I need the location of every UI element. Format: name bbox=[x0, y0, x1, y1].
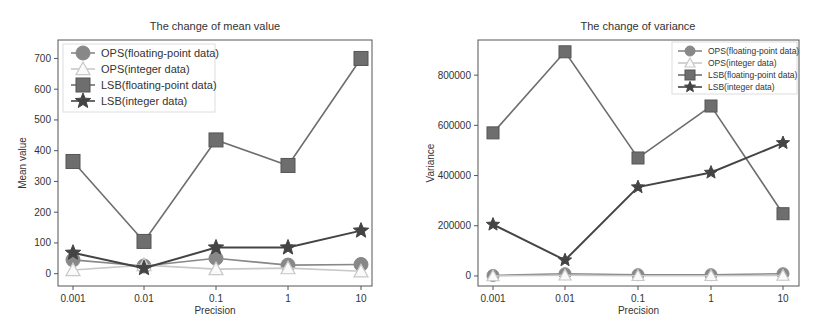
variance-chart: The change of variance020000040000060000… bbox=[410, 0, 813, 322]
data-point-marker bbox=[486, 218, 499, 231]
legend-marker-circle bbox=[76, 46, 90, 60]
y-tick-label: 0 bbox=[465, 270, 471, 281]
data-point-marker bbox=[281, 158, 295, 172]
mean-value-chart: The change of mean value0100200300400500… bbox=[0, 0, 410, 322]
y-tick-label: 200000 bbox=[438, 220, 472, 231]
y-tick-label: 600 bbox=[34, 84, 51, 95]
data-point-marker bbox=[280, 240, 295, 255]
x-tick-label: 1 bbox=[708, 293, 714, 304]
x-tick-label: 10 bbox=[355, 293, 367, 304]
legend-marker-square bbox=[76, 78, 90, 92]
y-tick-label: 400000 bbox=[438, 170, 472, 181]
data-point-marker bbox=[354, 51, 368, 65]
x-axis-label: Precision bbox=[194, 305, 235, 316]
x-tick-label: 0.01 bbox=[555, 293, 575, 304]
x-tick-label: 1 bbox=[285, 293, 291, 304]
series-triangle bbox=[487, 269, 789, 281]
data-point-marker bbox=[559, 46, 571, 58]
legend-label: LSB(floating-point data) bbox=[708, 70, 797, 80]
y-tick-label: 200 bbox=[34, 207, 51, 218]
x-tick-label: 0.1 bbox=[209, 293, 223, 304]
data-point-marker bbox=[632, 152, 644, 164]
legend-label: OPS(integer data) bbox=[708, 58, 777, 68]
legend-marker-square bbox=[685, 70, 695, 80]
y-tick-label: 0 bbox=[45, 268, 51, 279]
chart-title: The change of mean value bbox=[150, 20, 280, 32]
legend: OPS(floating-point data)OPS(integer data… bbox=[63, 44, 219, 112]
x-tick-label: 0.1 bbox=[631, 293, 645, 304]
mean-value-chart-svg: The change of mean value0100200300400500… bbox=[0, 0, 410, 322]
y-axis-label: Variance bbox=[425, 143, 436, 182]
x-tick-label: 10 bbox=[777, 293, 789, 304]
y-tick-label: 800000 bbox=[438, 70, 472, 81]
y-tick-label: 400 bbox=[34, 145, 51, 156]
data-point-marker bbox=[353, 223, 368, 238]
legend-marker-circle bbox=[685, 46, 695, 56]
y-axis-label: Mean value bbox=[17, 137, 28, 189]
legend-label: LSB(integer data) bbox=[101, 95, 187, 107]
legend: OPS(floating-point data)OPS(integer data… bbox=[672, 42, 799, 94]
y-tick-label: 100 bbox=[34, 237, 51, 248]
x-tick-label: 0.001 bbox=[60, 293, 85, 304]
data-point-marker bbox=[137, 234, 151, 248]
legend-label: LSB(integer data) bbox=[708, 82, 775, 92]
y-tick-label: 700 bbox=[34, 53, 51, 64]
data-point-marker bbox=[209, 133, 223, 147]
y-tick-label: 300 bbox=[34, 176, 51, 187]
data-point-marker bbox=[776, 136, 789, 149]
legend-label: OPS(floating-point data) bbox=[101, 47, 219, 59]
legend-label: OPS(floating-point data) bbox=[708, 46, 799, 56]
x-tick-label: 0.01 bbox=[134, 293, 154, 304]
x-axis-label: Precision bbox=[618, 305, 659, 316]
data-point-marker bbox=[487, 127, 499, 139]
data-point-marker bbox=[704, 166, 717, 179]
variance-chart-svg: The change of variance020000040000060000… bbox=[410, 0, 813, 322]
chart-title: The change of variance bbox=[581, 20, 696, 32]
data-point-marker bbox=[777, 208, 789, 220]
y-tick-label: 600000 bbox=[438, 120, 472, 131]
data-point-marker bbox=[705, 100, 717, 112]
x-tick-label: 0.001 bbox=[480, 293, 505, 304]
legend-label: LSB(floating-point data) bbox=[101, 79, 217, 91]
data-point-marker bbox=[66, 154, 80, 168]
y-tick-label: 500 bbox=[34, 114, 51, 125]
legend-label: OPS(integer data) bbox=[101, 63, 190, 75]
